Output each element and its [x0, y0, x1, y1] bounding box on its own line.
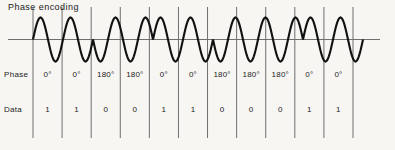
phase-cell: 180° — [237, 70, 266, 79]
data-bit-cell: 1 — [62, 105, 91, 114]
data-bit-cell: 1 — [295, 105, 324, 114]
data-bit-cell: 0 — [208, 105, 237, 114]
phase-cell: 180° — [91, 70, 120, 79]
phase-cell: 0° — [324, 70, 353, 79]
data-bit-cell: 1 — [324, 105, 353, 114]
data-bit-cell: 1 — [33, 105, 62, 114]
page-title: Phase encoding — [8, 2, 79, 12]
phase-cell: 180° — [120, 70, 149, 79]
data-bit-cell: 0 — [91, 105, 120, 114]
data-bit-cell: 1 — [149, 105, 178, 114]
phase-row-label: Phase — [4, 70, 28, 79]
phase-cell: 180° — [208, 70, 237, 79]
phase-cell: 180° — [266, 70, 295, 79]
data-bit-cell: 0 — [120, 105, 149, 114]
data-bit-cell: 1 — [178, 105, 207, 114]
phase-cell: 0° — [33, 70, 62, 79]
phase-cell: 0° — [295, 70, 324, 79]
data-row-label: Data — [4, 105, 22, 114]
phase-cell: 0° — [149, 70, 178, 79]
data-bit-cell: 0 — [237, 105, 266, 114]
data-bit-cell: 0 — [266, 105, 295, 114]
phase-cell: 0° — [178, 70, 207, 79]
phase-cell: 0° — [62, 70, 91, 79]
